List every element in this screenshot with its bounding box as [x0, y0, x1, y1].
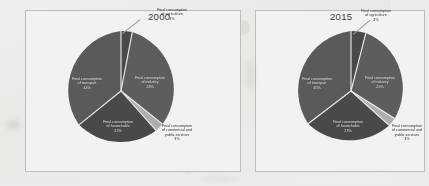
pie-label-industry-2015: Final consumption of industry 25% [358, 76, 402, 89]
pie-label-services-2000: Final consumption of commercial and publ… [152, 124, 202, 142]
chart-title-2015: 2015 [330, 11, 352, 22]
pie-label-transport-2015: Final consumption of transport 45% [294, 77, 340, 90]
scan-smudge-right [246, 60, 255, 90]
pie-label-services-2015: Final consumption of commercial and publ… [382, 124, 429, 142]
pie-label-agriculture-2015: Final consumption of agriculture 4% [352, 9, 400, 22]
scan-smudge-left [6, 120, 20, 129]
pie-label-households-2015: Final consumption of households 23% [326, 120, 370, 133]
pie-label-households-2000: Final consumption of households 22% [96, 120, 140, 133]
pie-label-agriculture-2000: Final consumption of agriculture 3% [148, 8, 196, 21]
pie-label-transport-2000: Final consumption of transport 44% [64, 77, 110, 90]
scan-smudge-bottom [200, 176, 240, 181]
pie-label-industry-2000: Final consumption of industry 28% [128, 76, 172, 89]
